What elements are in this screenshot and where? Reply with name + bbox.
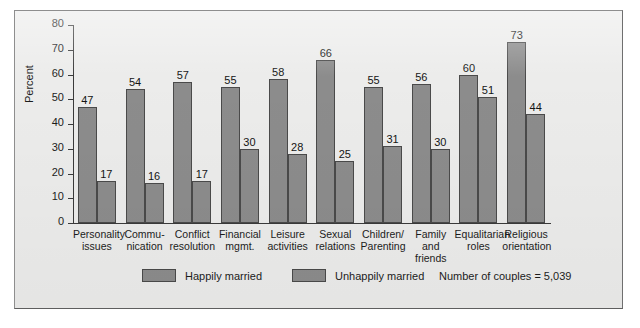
y-tick-label: 30 (42, 141, 64, 153)
bar-value-label: 57 (177, 69, 189, 81)
y-tick-label: 20 (42, 166, 64, 178)
x-category-label: Personality issues (73, 228, 121, 252)
bar: 30 (431, 149, 450, 223)
bar: 31 (383, 146, 402, 223)
bar: 17 (192, 181, 211, 223)
x-category-label: Family and friends (407, 228, 455, 264)
y-tick-mark (68, 124, 73, 125)
chart-figure: 01020304050607080 4717541657175530582866… (0, 0, 640, 328)
x-category-label: Equalitarian roles (455, 228, 503, 252)
bar: 56 (412, 84, 431, 223)
bar: 16 (145, 183, 164, 223)
bar-value-label: 51 (482, 84, 494, 96)
chart-panel: 01020304050607080 4717541657175530582866… (14, 10, 623, 309)
x-category-label: Commu- nication (121, 228, 169, 252)
y-tick-label: 70 (42, 42, 64, 54)
bar-value-label: 55 (224, 74, 236, 86)
bar-value-label: 25 (339, 148, 351, 160)
bar-value-label: 55 (367, 74, 379, 86)
bar: 54 (126, 89, 145, 223)
bar: 47 (78, 107, 97, 223)
y-tick-mark (68, 198, 73, 199)
bar-value-label: 16 (148, 170, 160, 182)
bar: 57 (173, 82, 192, 223)
bar: 17 (97, 181, 116, 223)
x-category-label: Financial mgmt. (216, 228, 264, 252)
bar: 58 (269, 79, 288, 223)
bar-value-label: 17 (196, 168, 208, 180)
bar-value-label: 47 (81, 94, 93, 106)
plot-area: 01020304050607080 4717541657175530582866… (73, 25, 550, 223)
y-tick-label: 60 (42, 67, 64, 79)
x-category-label: Leisure activities (264, 228, 312, 252)
legend-label-unhappily-married: Unhappily married (335, 270, 424, 282)
x-category-label: Religious orientation (502, 228, 550, 252)
y-tick-mark (68, 149, 73, 150)
legend-swatch-unhappily-married (292, 269, 326, 282)
chart-legend: Happily married Unhappily married Number… (15, 269, 622, 295)
legend-label-happily-married: Happily married (185, 270, 262, 282)
bar: 28 (288, 154, 307, 223)
bar-value-label: 58 (272, 66, 284, 78)
bar: 66 (316, 60, 335, 223)
bar-value-label: 31 (386, 133, 398, 145)
legend-swatch-happily-married (142, 269, 176, 282)
bar-value-label: 54 (129, 76, 141, 88)
bar: 51 (478, 97, 497, 223)
y-tick-mark (68, 75, 73, 76)
bar-value-label: 28 (291, 141, 303, 153)
x-category-label: Conflict resolution (168, 228, 216, 252)
bar: 25 (335, 161, 354, 223)
bar-value-label: 17 (100, 168, 112, 180)
y-tick-label: 80 (42, 17, 64, 29)
bar-value-label: 30 (434, 136, 446, 148)
legend-item-happily-married[interactable]: Happily married (142, 269, 262, 282)
bar-value-label: 60 (463, 62, 475, 74)
bar: 55 (221, 87, 240, 223)
bar-value-label: 56 (415, 71, 427, 83)
y-tick-label: 0 (42, 215, 64, 227)
y-axis-title: Percent (23, 65, 35, 103)
bar: 60 (459, 75, 478, 224)
y-tick-label: 40 (42, 116, 64, 128)
bar-value-label: 30 (243, 136, 255, 148)
x-category-label: Sexual relations (312, 228, 360, 252)
bar-value-label: 44 (530, 101, 542, 113)
bar: 55 (364, 87, 383, 223)
x-category-label: Children/ Parenting (359, 228, 407, 252)
y-tick-label: 10 (42, 190, 64, 202)
y-tick-mark (68, 174, 73, 175)
bar-value-label: 73 (511, 29, 523, 41)
y-tick-mark (68, 50, 73, 51)
y-tick-mark (68, 99, 73, 100)
bar-value-label: 66 (320, 47, 332, 59)
y-tick-mark (68, 25, 73, 26)
legend-item-unhappily-married[interactable]: Unhappily married (292, 269, 424, 282)
y-tick-label: 50 (42, 91, 64, 103)
couples-count-annotation: Number of couples = 5,039 (439, 270, 571, 282)
x-axis-line (73, 223, 551, 224)
bar: 44 (526, 114, 545, 223)
y-tick-mark (68, 223, 73, 224)
y-axis-line (73, 25, 74, 224)
bar: 73 (507, 42, 526, 223)
bar: 30 (240, 149, 259, 223)
